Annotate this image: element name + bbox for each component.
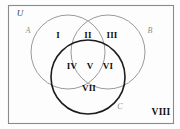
region-label-i: I — [56, 30, 60, 40]
region-label-iii: III — [106, 30, 117, 40]
venn-diagram-canvas: U A B C I II III IV V VI VII VIII — [0, 0, 180, 129]
venn-diagram-figure: U A B C I II III IV V VI VII VIII — [0, 0, 180, 129]
region-label-viii: VIII — [152, 107, 171, 117]
region-label-vii: VII — [82, 83, 96, 93]
set-b-circle — [71, 15, 145, 89]
set-c-circle — [51, 40, 125, 114]
region-label-vi: VI — [103, 61, 114, 71]
set-a-label: A — [25, 26, 31, 35]
set-b-label: B — [148, 26, 153, 35]
universal-set-label: U — [17, 8, 24, 18]
set-a-circle — [31, 15, 105, 89]
region-label-v: V — [87, 61, 94, 71]
region-label-ii: II — [84, 30, 92, 40]
set-c-label: C — [117, 102, 123, 111]
region-label-iv: IV — [67, 61, 78, 71]
